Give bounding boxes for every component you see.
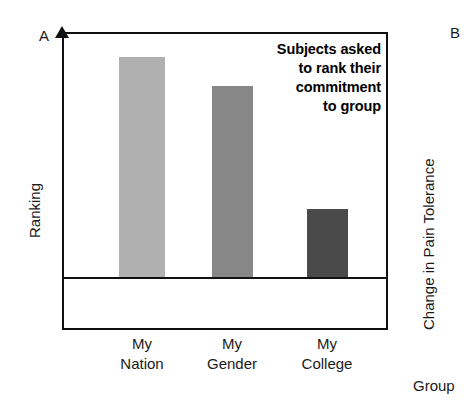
category-label-my-nation: My Nation	[92, 334, 192, 373]
annotation-line-1: Subjects asked	[196, 40, 381, 59]
y-axis-title-change-in-pain-tolerance: Change in Pain Tolerance	[420, 158, 437, 330]
category-label-my-nation-line-2: Nation	[92, 354, 192, 374]
chart-annotation: Subjects asked to rank their commitment …	[196, 40, 381, 115]
category-label-my-gender-line-2: Gender	[182, 354, 282, 374]
category-label-my-gender-line-1: My	[182, 334, 282, 354]
bar-my-college	[307, 209, 348, 278]
category-label-my-nation-line-1: My	[92, 334, 192, 354]
bar-my-nation	[119, 57, 165, 278]
x-axis-title-group: Group	[413, 377, 455, 394]
annotation-line-4: to group	[196, 97, 381, 116]
x-axis-category-labels: My Nation My Gender My College	[62, 334, 388, 382]
category-label-my-college: My College	[277, 334, 377, 373]
chart-baseline	[62, 277, 388, 279]
category-label-my-college-line-1: My	[277, 334, 377, 354]
annotation-line-2: to rank their	[196, 59, 381, 78]
annotation-line-3: commitment	[196, 78, 381, 97]
category-label-my-gender: My Gender	[182, 334, 282, 373]
y-axis-title-ranking: Ranking	[26, 183, 43, 238]
category-label-my-college-line-2: College	[277, 354, 377, 374]
panel-a-label: A	[39, 28, 49, 43]
figure-panel-a: A B Subjects asked to rank their commitm…	[0, 0, 475, 407]
panel-b-label: B	[450, 25, 460, 40]
